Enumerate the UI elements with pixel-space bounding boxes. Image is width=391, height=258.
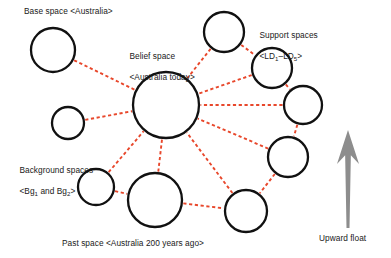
support-range-sub1: 1: [275, 55, 278, 62]
past-space-label: Past space <Australia 200 years ago>: [62, 238, 204, 248]
background-spaces-label: Background spaces <Bg1 and Bg2>: [10, 155, 93, 207]
connector-ld2-to-belief: [199, 75, 252, 94]
connector-past-to-belief: [158, 139, 162, 171]
support-range-mid: –LD: [278, 51, 293, 61]
belief-space-label-line1: Belief space: [129, 51, 175, 61]
support-range-sub2: 5: [294, 55, 297, 62]
mental-spaces-diagram: Base space <Australia> Belief space <Aus…: [0, 0, 391, 258]
background-spaces-label-line1: Background spaces: [19, 165, 93, 175]
background-range-mid: and Bg: [38, 186, 67, 196]
upward-float-arrow-group: [337, 130, 359, 228]
connector-bg2-to-past: [115, 191, 127, 194]
support-space-4-circle: [268, 137, 308, 177]
connector-bg1-to-belief: [85, 111, 132, 120]
background-range-sub2: 2: [67, 190, 70, 197]
connector-ld5-to-belief: [187, 133, 233, 194]
support-space-5-circle: [225, 190, 267, 232]
support-space-3-circle: [284, 86, 322, 124]
upward-float-arrow: [337, 130, 359, 228]
support-range-suffix: >: [297, 51, 302, 61]
background-space-1-circle: [52, 107, 84, 139]
support-spaces-label: Support spaces <LD1–LD5>: [250, 20, 318, 72]
connector-ld3-to-ld4: [294, 125, 297, 137]
upward-float-label: Upward float: [319, 233, 366, 243]
support-spaces-label-line1: Support spaces: [259, 30, 317, 40]
support-space-1-circle: [204, 12, 244, 52]
support-range-prefix: <LD: [259, 51, 275, 61]
belief-space-label-line2: <Australia today>: [129, 72, 194, 82]
background-range-prefix: <Bg: [19, 186, 34, 196]
base-space-label: Base space <Australia>: [24, 6, 113, 16]
background-range-sub1: 1: [35, 190, 38, 197]
connector-ld2-to-ld3: [286, 84, 290, 89]
past-space-circle: [128, 173, 182, 227]
background-range-suffix: >: [70, 186, 75, 196]
connector-past-to-ld5: [183, 203, 223, 208]
diagram-canvas: [0, 0, 391, 258]
connector-ld4-to-ld5: [260, 174, 275, 193]
connector-bg2-to-belief: [109, 131, 144, 172]
connector-ld4-to-belief: [198, 119, 268, 149]
support-spaces-label-line2: <LD1–LD5>: [259, 51, 302, 61]
base-space-circle: [31, 28, 75, 72]
belief-space-label: Belief space <Australia today>: [120, 41, 195, 93]
background-spaces-label-line2: <Bg1 and Bg2>: [19, 186, 75, 196]
